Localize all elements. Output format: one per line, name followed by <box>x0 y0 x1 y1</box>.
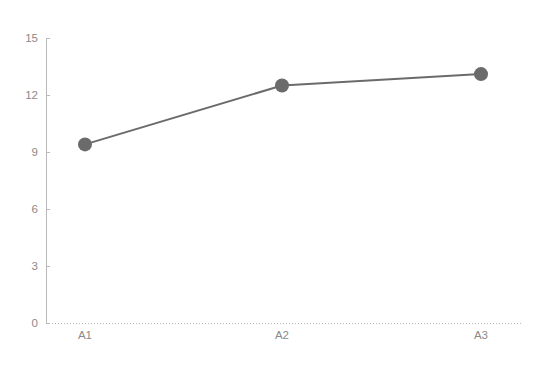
x-tick-label: A2 <box>275 329 289 341</box>
y-tick-label: 9 <box>32 146 38 158</box>
x-tick-label: A1 <box>78 329 92 341</box>
y-tick-label: 12 <box>25 89 38 101</box>
x-tick-label: A3 <box>474 329 488 341</box>
data-point-marker[interactable] <box>474 67 488 81</box>
y-tick-label: 0 <box>32 317 38 329</box>
y-tick-label: 6 <box>32 203 38 215</box>
y-tick-label: 15 <box>25 32 38 44</box>
line-chart: 03691215A1A2A3 <box>0 0 536 368</box>
data-point-marker[interactable] <box>275 79 289 93</box>
chart-canvas: 03691215A1A2A3 <box>0 0 536 368</box>
data-point-marker[interactable] <box>78 137 92 151</box>
y-tick-label: 3 <box>32 260 38 272</box>
